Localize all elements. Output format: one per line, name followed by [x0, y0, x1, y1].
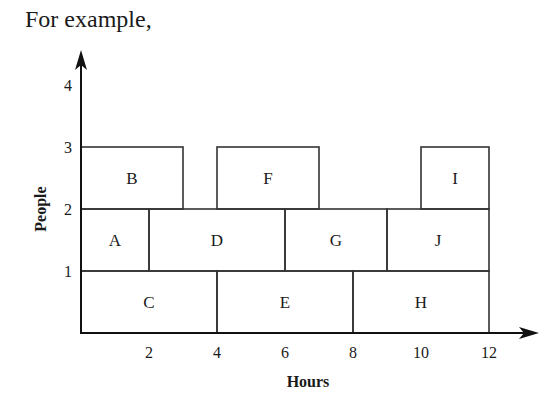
- x-tick-label: 10: [413, 344, 429, 361]
- block-label-d: D: [211, 231, 223, 250]
- block-label-b: B: [126, 169, 137, 188]
- block-label-j: J: [435, 231, 442, 250]
- blocks-group: ABCDEFGHIJ: [81, 147, 489, 333]
- block-label-g: G: [330, 231, 342, 250]
- block-label-h: H: [415, 293, 427, 312]
- x-tick-label: 2: [145, 344, 153, 361]
- block-label-a: A: [109, 231, 122, 250]
- block-label-e: E: [280, 293, 290, 312]
- block-diagram: ABCDEFGHIJ 24681012 1234 Hours People: [0, 0, 556, 402]
- x-tick-label: 4: [213, 344, 221, 361]
- x-tick-label: 12: [481, 344, 497, 361]
- y-axis-title: People: [32, 186, 50, 231]
- x-tick-label: 6: [281, 344, 289, 361]
- x-tick-labels: 24681012: [145, 344, 497, 361]
- y-tick-label: 1: [64, 263, 72, 280]
- y-tick-label: 3: [64, 139, 72, 156]
- block-label-c: C: [143, 293, 154, 312]
- x-axis-title: Hours: [287, 373, 330, 390]
- block-label-f: F: [263, 169, 272, 188]
- y-tick-label: 4: [64, 77, 72, 94]
- y-tick-labels: 1234: [64, 77, 72, 280]
- x-tick-label: 8: [349, 344, 357, 361]
- block-label-i: I: [452, 169, 458, 188]
- y-tick-label: 2: [64, 201, 72, 218]
